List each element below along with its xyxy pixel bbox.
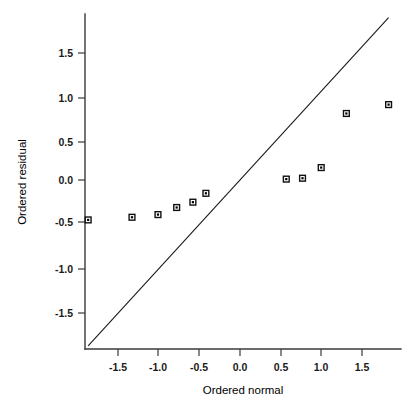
x-tick-label: 1.0 xyxy=(314,361,329,373)
marker-square-core xyxy=(176,206,178,208)
data-point-marker xyxy=(202,190,209,197)
data-point-marker xyxy=(299,175,306,182)
x-tick-label: 0.0 xyxy=(233,361,248,373)
data-point-marker xyxy=(189,199,196,206)
marker-square-core xyxy=(320,166,322,168)
y-tick-label: 0.5 xyxy=(58,136,73,148)
y-axis-tick-labels: 1.5 1.0 0.5 0.0 -0.5 -1.0 -1.5 xyxy=(55,47,73,319)
marker-square-core xyxy=(301,177,303,179)
x-tick-label: -1.0 xyxy=(149,361,167,373)
y-tick-label: -1.5 xyxy=(55,307,73,319)
data-point-series xyxy=(85,101,393,224)
data-point-marker xyxy=(128,214,135,221)
y-tick-label: 1.0 xyxy=(58,92,73,104)
marker-square-core xyxy=(131,216,133,218)
qq-plot-figure: 1.5 1.0 0.5 0.0 -0.5 -1.0 -1.5 -1.5 -1.0… xyxy=(0,0,413,406)
marker-square-core xyxy=(387,104,389,106)
y-tick-label: 1.5 xyxy=(58,47,73,59)
marker-square-core xyxy=(87,219,89,221)
x-axis-ticks xyxy=(118,349,362,356)
data-point-marker xyxy=(283,176,290,183)
x-axis-title: Ordered normal xyxy=(203,384,284,396)
marker-square-core xyxy=(205,192,207,194)
marker-square-core xyxy=(157,213,159,215)
x-tick-label: 1.5 xyxy=(355,361,370,373)
data-point-marker xyxy=(173,204,180,211)
marker-square-core xyxy=(192,201,194,203)
y-tick-label: 0.0 xyxy=(58,174,73,186)
y-axis-title: Ordered residual xyxy=(16,139,28,225)
x-tick-label: 0.5 xyxy=(274,361,289,373)
axis-lines xyxy=(85,14,401,349)
x-axis-tick-labels: -1.5 -1.0 -0.5 0.0 0.5 1.0 1.5 xyxy=(109,361,369,373)
data-point-marker xyxy=(85,216,92,223)
marker-square-core xyxy=(345,112,347,114)
data-point-marker xyxy=(154,211,161,218)
identity-reference-line xyxy=(88,18,388,346)
y-axis-ticks xyxy=(78,53,85,313)
reference-line xyxy=(88,18,388,346)
data-point-marker xyxy=(343,110,350,117)
x-tick-label: -1.5 xyxy=(109,361,127,373)
y-tick-label: -0.5 xyxy=(55,216,73,228)
y-tick-label: -1.0 xyxy=(55,263,73,275)
marker-square-core xyxy=(285,178,287,180)
data-point-marker xyxy=(318,164,325,171)
x-tick-label: -0.5 xyxy=(190,361,208,373)
plot-canvas: 1.5 1.0 0.5 0.0 -0.5 -1.0 -1.5 -1.5 -1.0… xyxy=(0,0,413,406)
data-point-marker xyxy=(385,101,392,108)
